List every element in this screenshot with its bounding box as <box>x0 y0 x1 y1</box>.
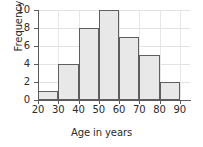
y-axis-line <box>38 10 39 101</box>
histogram-bar <box>99 10 119 100</box>
y-axis-tick <box>34 46 38 47</box>
histogram-bar <box>58 64 78 100</box>
x-axis-tick-label: 20 <box>27 105 49 115</box>
histogram-chart: Frequency 02468102030405060708090 Age in… <box>0 0 203 147</box>
y-axis-tick <box>34 64 38 65</box>
y-axis-tick-label: 10 <box>4 5 30 15</box>
plot-area: 02468102030405060708090 <box>38 10 190 100</box>
x-axis-tick-label: 50 <box>88 105 110 115</box>
y-axis-tick-label: 8 <box>4 23 30 33</box>
x-axis-tick-label: 80 <box>149 105 171 115</box>
y-axis-tick-label: 2 <box>4 77 30 87</box>
x-axis-tick-label: 30 <box>47 105 69 115</box>
x-axis-tick-label: 70 <box>128 105 150 115</box>
x-axis-tick-label: 60 <box>108 105 130 115</box>
y-axis-tick <box>34 82 38 83</box>
y-axis-tick <box>34 10 38 11</box>
x-axis-title: Age in years <box>0 127 203 138</box>
histogram-bar <box>79 28 99 100</box>
y-axis-tick-label: 6 <box>4 41 30 51</box>
histogram-bar <box>119 37 139 100</box>
y-axis-tick-label: 4 <box>4 59 30 69</box>
histogram-bar <box>38 91 58 100</box>
histogram-bar <box>160 82 180 100</box>
gridline-vertical <box>180 10 181 100</box>
x-axis-tick-label: 40 <box>68 105 90 115</box>
x-axis-tick-label: 90 <box>169 105 191 115</box>
histogram-bar <box>139 55 159 100</box>
y-axis-tick <box>34 28 38 29</box>
y-axis-tick-label: 0 <box>4 95 30 105</box>
